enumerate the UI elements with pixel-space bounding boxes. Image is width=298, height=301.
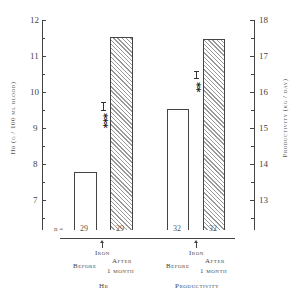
group-label-hb: Hb bbox=[99, 282, 108, 290]
n-hb-before: 29 bbox=[80, 224, 88, 233]
left-axis-tick-7 bbox=[42, 200, 46, 201]
group-label-productivity: Productivity bbox=[175, 282, 219, 290]
iron-label-productivity: Iron bbox=[189, 249, 204, 257]
bar-hb-after bbox=[110, 37, 133, 230]
left-y-axis bbox=[42, 20, 43, 230]
right-axis-tick-14 bbox=[250, 164, 254, 165]
left-tick-label-10: 10 bbox=[30, 88, 39, 97]
left-tick-label-11: 11 bbox=[30, 52, 39, 61]
right-axis-minor-tick bbox=[251, 38, 254, 39]
right-axis-minor-tick bbox=[251, 74, 254, 75]
significance-productivity: ** bbox=[191, 82, 201, 92]
right-y-axis bbox=[254, 20, 255, 230]
right-axis-tick-17 bbox=[250, 56, 254, 57]
iron-arrow-hb bbox=[102, 242, 103, 248]
right-tick-label-13: 13 bbox=[259, 196, 268, 205]
right-axis-tick-16 bbox=[250, 92, 254, 93]
right-axis-tick-13 bbox=[250, 200, 254, 201]
right-tick-label-17: 17 bbox=[259, 52, 268, 61]
right-tick-label-16: 16 bbox=[259, 88, 268, 97]
right-axis-tick-18 bbox=[250, 20, 254, 21]
left-axis-minor-tick bbox=[42, 38, 45, 39]
right-axis-minor-tick bbox=[251, 110, 254, 111]
left-axis-tick-9 bbox=[42, 128, 46, 129]
left-axis-minor-tick bbox=[42, 146, 45, 147]
n-hb-after: 29 bbox=[116, 224, 124, 233]
left-axis-tick-11 bbox=[42, 56, 46, 57]
iron-label-hb: Iron bbox=[95, 249, 110, 257]
label-hb-before: Before bbox=[73, 262, 97, 270]
left-axis-minor-tick bbox=[42, 182, 45, 183]
error-bar-hb bbox=[101, 102, 106, 111]
left-axis-minor-tick bbox=[42, 218, 45, 219]
left-tick-label-9: 9 bbox=[33, 124, 38, 133]
left-axis-minor-tick bbox=[42, 74, 45, 75]
right-y-axis-label: Productivity (kg / day) bbox=[281, 63, 289, 173]
bar-productivity-after bbox=[203, 39, 225, 230]
significance-hb: *** bbox=[98, 113, 108, 127]
right-axis-minor-tick bbox=[251, 182, 254, 183]
label-hb-after-1: After bbox=[112, 257, 132, 265]
x-axis-baseline bbox=[60, 238, 235, 239]
label-productivity-after-1: After bbox=[205, 257, 225, 265]
right-axis-tick-15 bbox=[250, 128, 254, 129]
right-tick-label-18: 18 bbox=[259, 16, 268, 25]
error-bar-productivity bbox=[194, 71, 199, 79]
n-productivity-after: 32 bbox=[209, 224, 217, 233]
left-tick-label-7: 7 bbox=[33, 196, 38, 205]
left-axis-tick-10 bbox=[42, 92, 46, 93]
left-tick-label-8: 8 bbox=[33, 160, 38, 169]
right-axis-minor-tick bbox=[251, 146, 254, 147]
right-tick-label-14: 14 bbox=[259, 160, 268, 169]
right-tick-label-15: 15 bbox=[259, 124, 268, 133]
left-tick-label-12: 12 bbox=[30, 16, 39, 25]
n-productivity-before: 32 bbox=[173, 224, 181, 233]
left-axis-tick-8 bbox=[42, 164, 46, 165]
iron-arrow-productivity bbox=[196, 242, 197, 248]
bar-productivity-before bbox=[167, 109, 189, 230]
right-axis-minor-tick bbox=[251, 218, 254, 219]
left-axis-tick-12 bbox=[42, 20, 46, 21]
n-label: n = bbox=[54, 225, 63, 233]
label-hb-after-2: 1 month bbox=[107, 267, 134, 275]
label-productivity-after-2: 1 month bbox=[200, 267, 227, 275]
bar-hb-before bbox=[74, 172, 97, 230]
label-productivity-before: Before bbox=[166, 262, 190, 270]
left-y-axis-label: Hb (g / 100 ml blood) bbox=[9, 68, 17, 168]
left-axis-minor-tick bbox=[42, 110, 45, 111]
